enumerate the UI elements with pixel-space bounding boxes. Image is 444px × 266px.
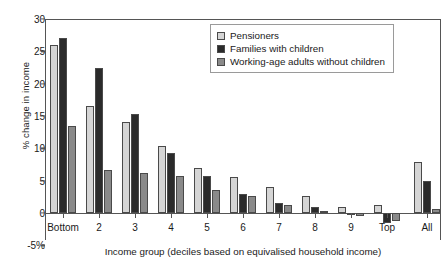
legend: Pensioners Families with children Workin… [210, 24, 394, 73]
x-tick-mark [243, 213, 244, 218]
bar-group [122, 19, 149, 213]
x-tick-label: 2 [96, 222, 102, 233]
legend-swatch-families [217, 45, 225, 53]
x-tick-label: 3 [132, 222, 138, 233]
x-tick-mark [99, 213, 100, 218]
bar [432, 209, 441, 213]
x-tick-label: 5 [204, 222, 210, 233]
bar [392, 213, 401, 221]
legend-item: Families with children [217, 42, 385, 55]
bar [104, 170, 113, 213]
x-tick-mark [315, 213, 316, 218]
legend-swatch-working-age [217, 58, 225, 66]
legend-label: Families with children [230, 42, 324, 55]
bar [131, 114, 140, 213]
bar [338, 207, 347, 213]
bar [302, 196, 311, 213]
bar [275, 203, 284, 213]
bar-group [50, 19, 77, 213]
bar-group [414, 19, 441, 213]
x-tick-mark [63, 213, 64, 218]
bar [284, 205, 293, 213]
right-axis-lower-segment [440, 213, 441, 240]
x-tick-label: 7 [276, 222, 282, 233]
bar [230, 177, 239, 213]
legend-label: Working-age adults without children [230, 55, 385, 68]
bar [167, 153, 176, 213]
legend-swatch-pensioners [217, 32, 225, 40]
bar [423, 181, 432, 213]
bar [86, 106, 95, 213]
bar [320, 211, 329, 213]
bar-group [158, 19, 185, 213]
x-tick-mark [135, 213, 136, 218]
legend-label: Pensioners [230, 29, 279, 42]
x-tick-mark [387, 213, 388, 218]
bar [203, 176, 212, 214]
bar [414, 162, 423, 213]
chart-root: % change in income 302520151050-5% Botto… [0, 0, 444, 266]
x-axis-title: Income group (deciles based on equivalis… [45, 246, 441, 257]
bar [248, 196, 257, 213]
bar [212, 190, 221, 213]
x-tick-label: 9 [348, 222, 354, 233]
x-tick-mark [207, 213, 208, 218]
bar [266, 187, 275, 214]
x-tick-label: Bottom [47, 222, 79, 233]
bar [68, 126, 77, 213]
x-tick-mark [279, 213, 280, 218]
x-tick-label: All [421, 222, 432, 233]
bar [50, 45, 59, 213]
x-tick-mark [171, 213, 172, 218]
bar-group [86, 19, 113, 213]
x-tick-label: 6 [240, 222, 246, 233]
bar [176, 176, 185, 214]
legend-item: Working-age adults without children [217, 55, 385, 68]
bar [239, 194, 248, 213]
x-tick-label: 8 [312, 222, 318, 233]
bar [140, 173, 149, 213]
x-tick-mark [351, 213, 352, 218]
bar [356, 213, 365, 216]
bar [194, 168, 203, 213]
bar [59, 38, 68, 213]
legend-item: Pensioners [217, 29, 385, 42]
bar [122, 122, 131, 213]
x-tick-label: 4 [168, 222, 174, 233]
x-tick-mark [427, 213, 428, 218]
bar [374, 205, 383, 213]
bar [158, 146, 167, 213]
bar [95, 68, 104, 213]
x-tick-label: Top [379, 222, 395, 233]
